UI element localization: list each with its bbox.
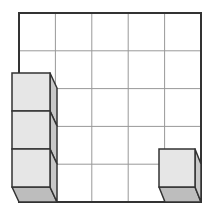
diagram-canvas: [0, 0, 217, 214]
cube-front-face: [12, 149, 50, 187]
right-corner-cube: [159, 149, 201, 202]
cube-front-face: [12, 73, 50, 111]
cube-bottom-face: [159, 187, 201, 202]
cube-grid-diagram: [0, 0, 217, 214]
cube-front-face: [12, 111, 50, 149]
left-cube-stack: [12, 73, 57, 202]
cube-front-face: [159, 149, 195, 187]
